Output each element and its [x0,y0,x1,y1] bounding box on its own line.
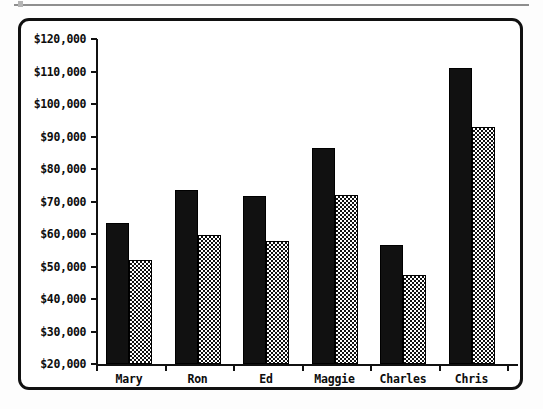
chart-frame [18,18,523,390]
page-top-rule [14,4,529,6]
page-top-rule-tick [18,1,23,7]
